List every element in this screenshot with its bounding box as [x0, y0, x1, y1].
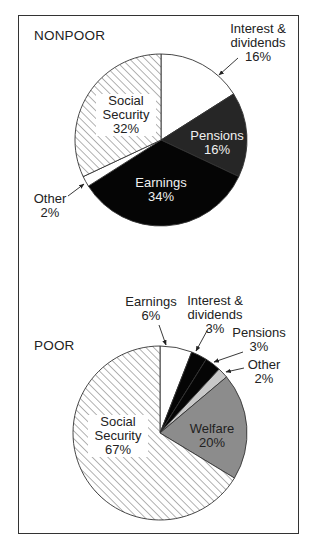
- label-poor-other: Other 2%: [244, 358, 284, 386]
- label-nonpoor-social-security: Social Security 32%: [96, 94, 156, 136]
- leader-poor-earnings: [159, 325, 166, 345]
- label-nonpoor-pensions: Pensions 16%: [186, 129, 248, 157]
- panel-title-nonpoor: NONPOOR: [34, 29, 105, 43]
- label-poor-earnings: Earnings 6%: [124, 295, 178, 323]
- label-poor-welfare: Welfare 20%: [182, 422, 242, 450]
- panel-title-poor: POOR: [34, 339, 75, 353]
- leader-poor-other: [226, 368, 244, 372]
- leader-nonpoor-other: [68, 184, 84, 196]
- label-nonpoor-other: Other 2%: [30, 192, 70, 220]
- label-nonpoor-earnings: Earnings 34%: [128, 176, 194, 204]
- label-poor-pensions: Pensions 3%: [226, 326, 292, 354]
- pie-charts: [0, 0, 314, 544]
- label-poor-social-security: Social Security 67%: [88, 415, 148, 457]
- label-nonpoor-interest: Interest & dividends 16%: [222, 22, 294, 64]
